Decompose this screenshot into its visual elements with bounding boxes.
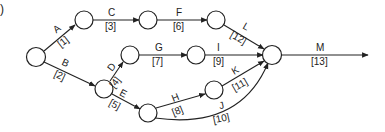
label-m-dur: [13] (311, 56, 328, 67)
activity-network-diagram: A [1] B [2] C [3] F [6] L [12] D [4] G [… (0, 0, 385, 132)
label-i-dur: [9] (213, 56, 224, 67)
edge-b (44, 62, 95, 86)
label-f-dur: [6] (173, 21, 184, 32)
label-j-name: J (218, 100, 225, 112)
label-k-name: K (229, 64, 241, 77)
label-g-dur: [7] (152, 56, 163, 67)
label-g-name: G (155, 42, 163, 53)
label-j-dur: [10] (212, 111, 231, 125)
label-k-dur: [11] (230, 76, 249, 94)
label-h-dur: [8] (170, 103, 185, 117)
edges (44, 20, 368, 120)
label-m-name: M (316, 42, 324, 53)
label-b-dur: [2] (52, 68, 67, 83)
label-c-dur: [3] (105, 21, 116, 32)
label-a-name: A (51, 22, 63, 35)
label-i-name: I (217, 42, 220, 53)
node-6 (187, 46, 205, 64)
node-1 (27, 48, 46, 67)
label-e-dur: [5] (107, 97, 122, 112)
label-b-name: B (60, 56, 71, 69)
node-3 (139, 11, 157, 29)
node-5 (121, 46, 139, 64)
label-f-name: F (176, 7, 182, 18)
node-2 (75, 11, 93, 29)
label-l-name: L (241, 20, 252, 33)
label-c-name: C (108, 7, 115, 18)
node-10 (263, 46, 282, 65)
label-a-dur: [1] (55, 34, 71, 50)
node-4 (207, 11, 225, 29)
node-9 (205, 81, 223, 99)
node-8 (139, 104, 157, 122)
